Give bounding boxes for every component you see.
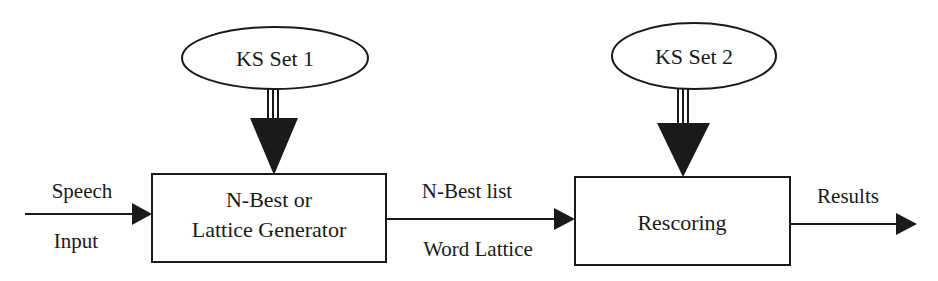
- arrowhead-down-icon: [657, 123, 710, 177]
- input-label-top: Speech: [52, 179, 113, 203]
- ks2-feed-arrow: [657, 89, 710, 177]
- arrowhead-right-icon: [554, 208, 575, 230]
- rescoring-node: Rescoring: [575, 177, 790, 265]
- ks-set-2-node: KS Set 2: [612, 23, 776, 89]
- speech-recognition-diagram: KS Set 1 KS Set 2 N-Best or Lattice Gene…: [0, 0, 938, 281]
- middle-edge: [386, 208, 575, 230]
- generator-label-line-2: Lattice Generator: [192, 217, 347, 242]
- arrowhead-right-icon: [896, 213, 917, 235]
- input-edge: [25, 203, 152, 225]
- middle-label-bottom: Word Lattice: [423, 237, 533, 261]
- output-edge: [790, 213, 917, 235]
- input-label-bottom: Input: [54, 229, 98, 253]
- ks-set-1-node: KS Set 1: [182, 27, 368, 89]
- output-label: Results: [817, 184, 879, 208]
- generator-label-line-1: N-Best or: [226, 187, 313, 212]
- arrowhead-right-icon: [132, 203, 152, 225]
- rescoring-label: Rescoring: [637, 210, 726, 235]
- ks-set-2-label: KS Set 2: [655, 44, 733, 69]
- middle-label-top: N-Best list: [422, 179, 513, 203]
- ks1-feed-arrow: [250, 89, 298, 175]
- arrowhead-down-icon: [250, 118, 298, 175]
- ks-set-1-label: KS Set 1: [236, 46, 314, 71]
